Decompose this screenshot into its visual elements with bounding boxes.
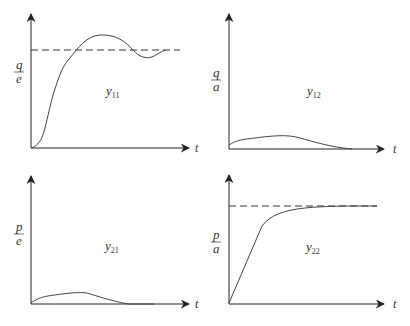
xlabel: t [393, 142, 397, 156]
curve-label: y22 [304, 239, 320, 256]
ylabel-numerator: p [212, 227, 220, 242]
ylabel-numerator: p [15, 219, 23, 234]
ylabel-denominator: a [213, 79, 220, 94]
xlabel: t [393, 297, 397, 311]
ylabel-denominator: e [16, 71, 22, 86]
step-response-diagram: q e y11 t q a y12 t p e y21 t p a y22 t [0, 0, 410, 326]
response-curve [31, 35, 166, 148]
ylabel-denominator: e [16, 233, 22, 248]
panel-y22: p a y22 t [211, 175, 397, 311]
response-curve [229, 136, 352, 149]
xlabel: t [195, 141, 199, 155]
curve-label: y11 [104, 83, 119, 100]
curve-label: y21 [103, 238, 119, 255]
ylabel-denominator: a [213, 241, 220, 256]
xlabel: t [195, 297, 199, 311]
ylabel-numerator: q [213, 65, 220, 80]
panel-y12: q a y12 t [211, 14, 397, 156]
curve-label: y12 [305, 83, 321, 100]
panel-y21: p e y21 t [14, 176, 199, 311]
ylabel-numerator: q [16, 57, 23, 72]
panel-y11: q e y11 t [14, 14, 199, 155]
response-curve [31, 293, 154, 304]
response-curve [229, 206, 377, 303]
